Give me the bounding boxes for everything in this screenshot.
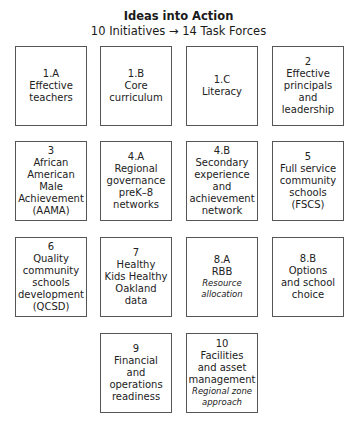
box-label-line: (FSCS) <box>291 199 324 211</box>
box-label-line: Options <box>289 265 328 277</box>
box-label-line: Male <box>39 181 63 193</box>
task-force-box-7: 7 Healthy Kids Healthy Oakland data <box>100 237 172 317</box>
task-force-box-1c: 1.C Literacy <box>186 46 258 126</box>
task-force-box-8b: 8.B Options and school choice <box>272 237 344 317</box>
task-force-box-1b: 1.B Core curriculum <box>100 46 172 126</box>
box-number: 10 <box>216 338 229 350</box>
box-label-line: achievement <box>189 193 254 205</box>
box-label-line: teachers <box>29 92 73 104</box>
box-label-line: choice <box>292 289 324 301</box>
box-number: 1.A <box>43 68 59 80</box>
box-label-line: Financial <box>114 355 158 367</box>
task-force-box-8a: 8.A RBB Resource allocation <box>186 237 258 317</box>
box-label-line: schools <box>289 187 326 199</box>
task-force-box-6: 6 Quality community schools development … <box>15 237 87 317</box>
box-label-line: operations <box>109 379 162 391</box>
box-label-line: RBB <box>212 266 233 278</box>
box-label-line: Kids Healthy <box>105 271 168 283</box>
box-label-line: Oakland <box>115 283 156 295</box>
box-label-line: American <box>27 169 75 181</box>
box-label-line: African <box>34 157 69 169</box>
box-label-line: schools <box>32 277 69 289</box>
box-label-line: and <box>213 181 232 193</box>
box-label-line: Healthy <box>117 259 156 271</box>
box-number: 4.A <box>128 151 144 163</box>
box-label-line: preK–8 <box>119 187 153 199</box>
box-note-line: Resource <box>202 278 242 289</box>
box-number: 5 <box>305 151 311 163</box>
task-force-box-3: 3 African American Male Achievement (AAM… <box>15 141 87 221</box>
box-number: 1.C <box>214 74 231 86</box>
box-label-line: Regional <box>114 163 157 175</box>
box-number: 2 <box>305 56 311 68</box>
box-number: 8.B <box>300 253 316 265</box>
task-force-box-2: 2 Effective principals and leadership <box>272 46 344 126</box>
diagram-title: Ideas into Action <box>0 9 357 23</box>
box-number: 8.A <box>214 254 230 266</box>
box-number: 7 <box>133 247 139 259</box>
box-label-line: Achievement <box>18 193 84 205</box>
box-label-line: Effective <box>286 68 330 80</box>
box-label-line: Facilities <box>201 350 244 362</box>
box-label-line: (QCSD) <box>33 301 70 313</box>
box-label-line: experience <box>194 169 249 181</box>
box-label-line: Quality <box>33 253 69 265</box>
box-label-line: leadership <box>282 104 334 116</box>
box-label-line: Core <box>124 80 147 92</box>
task-force-box-9: 9 Financial and operations readiness <box>100 333 172 413</box>
box-label-line: Effective <box>29 80 73 92</box>
box-number: 3 <box>48 145 54 157</box>
task-force-box-5: 5 Full service community schools (FSCS) <box>272 141 344 221</box>
box-label-line: principals <box>284 80 332 92</box>
box-label-line: Full service <box>280 163 336 175</box>
task-force-box-1a: 1.A Effective teachers <box>15 46 87 126</box>
box-label-line: data <box>125 295 148 307</box>
box-label-line: development <box>18 289 84 301</box>
box-label-line: readiness <box>112 391 160 403</box>
box-note-line: approach <box>202 397 242 408</box>
box-label-line: and asset <box>198 362 247 374</box>
box-label-line: and <box>299 92 318 104</box>
box-label-line: curriculum <box>109 92 162 104</box>
box-label-line: Literacy <box>202 86 242 98</box>
box-number: 4.B <box>214 145 230 157</box>
box-label-line: governance <box>107 175 166 187</box>
task-force-box-4a: 4.A Regional governance preK–8 networks <box>100 141 172 221</box>
task-force-box-4b: 4.B Secondary experience and achievement… <box>186 141 258 221</box>
box-label-line: Secondary <box>196 157 249 169</box>
box-label-line: community <box>23 265 79 277</box>
diagram-subtitle: 10 Initiatives → 14 Task Forces <box>0 24 357 39</box>
box-number: 6 <box>48 241 54 253</box>
box-number: 9 <box>133 343 139 355</box>
box-label-line: and school <box>281 277 335 289</box>
box-label-line: network <box>202 205 243 217</box>
box-note-line: allocation <box>201 289 242 300</box>
box-label-line: management <box>189 374 256 386</box>
task-force-box-10: 10 Facilities and asset management Regio… <box>186 333 258 413</box>
box-note-line: Regional zone <box>192 386 252 397</box>
box-label-line: networks <box>113 199 159 211</box>
box-label-line: community <box>280 175 336 187</box>
box-label-line: (AAMA) <box>32 205 69 217</box>
box-label-line: and <box>127 367 146 379</box>
box-number: 1.B <box>128 68 144 80</box>
